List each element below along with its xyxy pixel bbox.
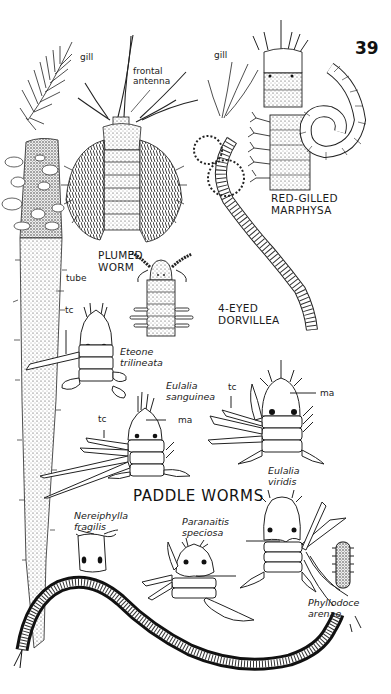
label-tc-sanguinea: tc (98, 414, 106, 424)
caption-red-gilled-marphysa: RED-GILLED MARPHYSA (271, 192, 338, 216)
worm-illustrations (0, 0, 391, 694)
caption-nereiphylla-fragilis: Nereiphylla fragilis (74, 510, 128, 532)
label-line: Phyllodoce (308, 597, 359, 608)
label-frontal-antenna: frontal antenna (133, 66, 170, 86)
label-line: viridis (268, 476, 300, 487)
caption-eulalia-viridis: Eulalia viridis (268, 465, 300, 487)
page-number: 39 (355, 38, 379, 58)
eulalia-viridis-illustration (208, 360, 324, 464)
label-tube: tube (66, 273, 86, 283)
caption-eulalia-sanguinea: Eulalia sanguinea (166, 380, 215, 402)
label-line: MARPHYSA (271, 204, 338, 216)
label-line: speciosa (182, 527, 229, 538)
caption-paranaitis-speciosa: Paranaitis speciosa (182, 516, 229, 538)
paranaitis-speciosa-illustration (142, 538, 254, 621)
label-line: sanguinea (166, 391, 215, 402)
label-line: trilineata (120, 357, 163, 368)
label-line: Eteone (120, 346, 163, 357)
label-line: antenna (133, 76, 170, 86)
gill-illustration-right (208, 62, 258, 118)
section-heading-paddle-worms: PADDLE WORMS (133, 487, 264, 505)
nereiphylla-fragilis-illustration (76, 530, 118, 572)
caption-phyllodoce-arenae: Phyllodoce arenae (308, 597, 359, 619)
label-gill-left: gill (80, 52, 93, 62)
label-line: 4-EYED (218, 302, 280, 314)
label-line: RED-GILLED (271, 192, 338, 204)
label-line: Eulalia (268, 465, 300, 476)
label-line: Nereiphylla (74, 510, 128, 521)
label-line: frontal (133, 66, 170, 76)
tube-illustration (2, 138, 67, 648)
label-ma-viridis: ma (320, 388, 334, 398)
label-line: Eulalia (166, 380, 215, 391)
label-ma-sanguinea: ma (178, 415, 192, 425)
label-line: WORM (98, 261, 143, 273)
label-line: DORVILLEA (218, 314, 280, 326)
plumed-worm-illustration (61, 35, 198, 242)
label-line: Paranaitis (182, 516, 229, 527)
caption-four-eyed-dorvillea: 4-EYED DORVILLEA (218, 302, 280, 326)
label-tc-eteone: tc (65, 305, 73, 315)
label-line: fragilis (74, 521, 128, 532)
label-gill-right: gill (214, 50, 227, 60)
label-line: PLUMED (98, 249, 143, 261)
caption-eteone-trilineata: Eteone trilineata (120, 346, 163, 368)
red-gilled-marphysa-illustration (194, 20, 366, 330)
gill-illustration-left (20, 42, 72, 130)
eulalia-sanguinea-illustration (40, 392, 190, 498)
field-guide-page: 39 gill frontal antenna gill PLUMED WORM… (0, 0, 391, 694)
caption-plumed-worm: PLUMED WORM (98, 249, 143, 273)
label-tc-viridis: tc (228, 382, 236, 392)
label-line: arenae (308, 608, 359, 619)
